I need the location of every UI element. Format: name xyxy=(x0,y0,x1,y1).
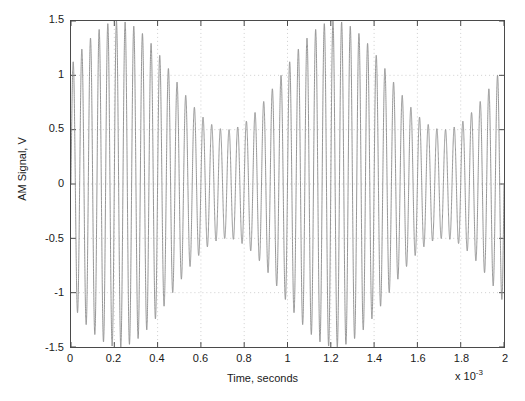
signal-trace xyxy=(71,21,504,347)
plot-area xyxy=(70,20,505,348)
y-tick-label: -1.5 xyxy=(24,342,64,352)
x-tick-label: 1 xyxy=(268,353,308,364)
x-axis-title: Time, seconds xyxy=(0,372,525,384)
y-tick-label: -0.5 xyxy=(24,233,64,243)
x-axis-exponent-multiplier: x 10-3 xyxy=(455,368,483,382)
x-tick-label: 1.4 xyxy=(355,353,395,364)
x-tick-label: 0.2 xyxy=(94,353,134,364)
x-tick-label: 1.8 xyxy=(442,353,482,364)
y-tick-label: 1 xyxy=(24,69,64,79)
x-tick-label: 0 xyxy=(50,353,90,364)
figure-am-signal-plot: -1.5-1-0.500.511.5 00.20.40.60.811.21.41… xyxy=(0,0,525,401)
y-tick-label: -1 xyxy=(24,287,64,297)
x-tick-label: 1.6 xyxy=(398,353,438,364)
y-axis-title: AM Signal, V xyxy=(16,99,28,239)
x-tick-label: 0.8 xyxy=(224,353,264,364)
x-tick-label: 2 xyxy=(485,353,525,364)
y-tick-label: 0.5 xyxy=(24,123,64,133)
y-tick-label: 1.5 xyxy=(24,14,64,24)
x-axis-exponent-power: -3 xyxy=(476,368,483,377)
x-tick-label: 0.4 xyxy=(137,353,177,364)
plot-svg xyxy=(71,21,504,347)
x-tick-label: 0.6 xyxy=(181,353,221,364)
x-axis-exponent-prefix: x 10 xyxy=(455,370,476,382)
y-tick-label: 0 xyxy=(24,178,64,188)
x-tick-label: 1.2 xyxy=(311,353,351,364)
